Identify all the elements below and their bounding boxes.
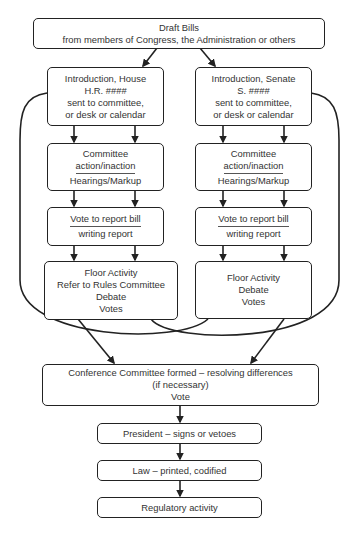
conference-line: Conference Committee formed – resolving … — [68, 367, 292, 379]
law-label: Law – printed, codified — [133, 465, 227, 477]
draft-title: Draft Bills — [159, 22, 199, 34]
conference-line: (if necessary) — [152, 379, 208, 391]
senate-intro-line: Introduction, Senate — [212, 73, 296, 85]
arrow-draft-to-house — [143, 48, 157, 66]
draft-bills-box: Draft Bills from members of Congress, th… — [33, 18, 325, 49]
conference-committee-box: Conference Committee formed – resolving … — [42, 364, 319, 406]
house-vote-box: Vote to report bill writing report — [47, 207, 164, 246]
house-bill-number: H.R. #### — [84, 85, 126, 97]
committee-action: action/inaction — [224, 160, 284, 174]
committee-hearings: Hearings/Markup — [70, 175, 141, 187]
senate-bill-number: S. #### — [237, 85, 269, 97]
arrow-draft-to-senate — [200, 48, 215, 66]
house-intro-line: Introduction, House — [65, 73, 146, 85]
floor-line: Debate — [96, 291, 126, 303]
writing-report: writing report — [226, 228, 280, 240]
house-intro-line: sent to committee, — [67, 97, 144, 109]
floor-line: Floor Activity — [227, 272, 280, 284]
vote-label: Vote to report bill — [70, 213, 140, 227]
law-box: Law – printed, codified — [97, 460, 262, 481]
committee-action: action/inaction — [76, 160, 136, 174]
president-label: President – signs or vetoes — [123, 428, 236, 440]
president-box: President – signs or vetoes — [97, 423, 262, 444]
senate-intro-line: or desk or calendar — [213, 109, 293, 121]
floor-line: Votes — [242, 296, 265, 308]
senate-committee-box: Committee action/inaction Hearings/Marku… — [195, 143, 312, 191]
regulatory-box: Regulatory activity — [97, 497, 262, 518]
draft-subtitle: from members of Congress, the Administra… — [63, 34, 296, 46]
senate-vote-box: Vote to report bill writing report — [195, 207, 312, 246]
committee-hearings: Hearings/Markup — [218, 175, 289, 187]
conference-line: Vote — [171, 391, 190, 403]
floor-line: Floor Activity — [84, 267, 137, 279]
vote-label: Vote to report bill — [218, 213, 288, 227]
senate-floor-box: Floor Activity Debate Votes — [195, 261, 312, 319]
arrow-senate-floor-to-conference — [251, 319, 284, 363]
house-introduction-box: Introduction, House H.R. #### sent to co… — [47, 67, 164, 126]
house-floor-box: Floor Activity Refer to Rules Committee … — [44, 261, 178, 320]
committee-label: Committee — [83, 148, 128, 160]
committee-label: Committee — [231, 148, 276, 160]
senate-introduction-box: Introduction, Senate S. #### sent to com… — [195, 67, 312, 126]
floor-line: Refer to Rules Committee — [57, 279, 165, 291]
arrow-house-floor-to-conference — [78, 319, 114, 363]
floor-line: Votes — [99, 303, 122, 315]
regulatory-label: Regulatory activity — [141, 502, 218, 514]
senate-intro-line: sent to committee, — [215, 97, 292, 109]
house-intro-line: or desk or calendar — [65, 109, 145, 121]
writing-report: writing report — [78, 228, 132, 240]
floor-line: Debate — [238, 284, 268, 296]
house-committee-box: Committee action/inaction Hearings/Marku… — [47, 143, 164, 191]
